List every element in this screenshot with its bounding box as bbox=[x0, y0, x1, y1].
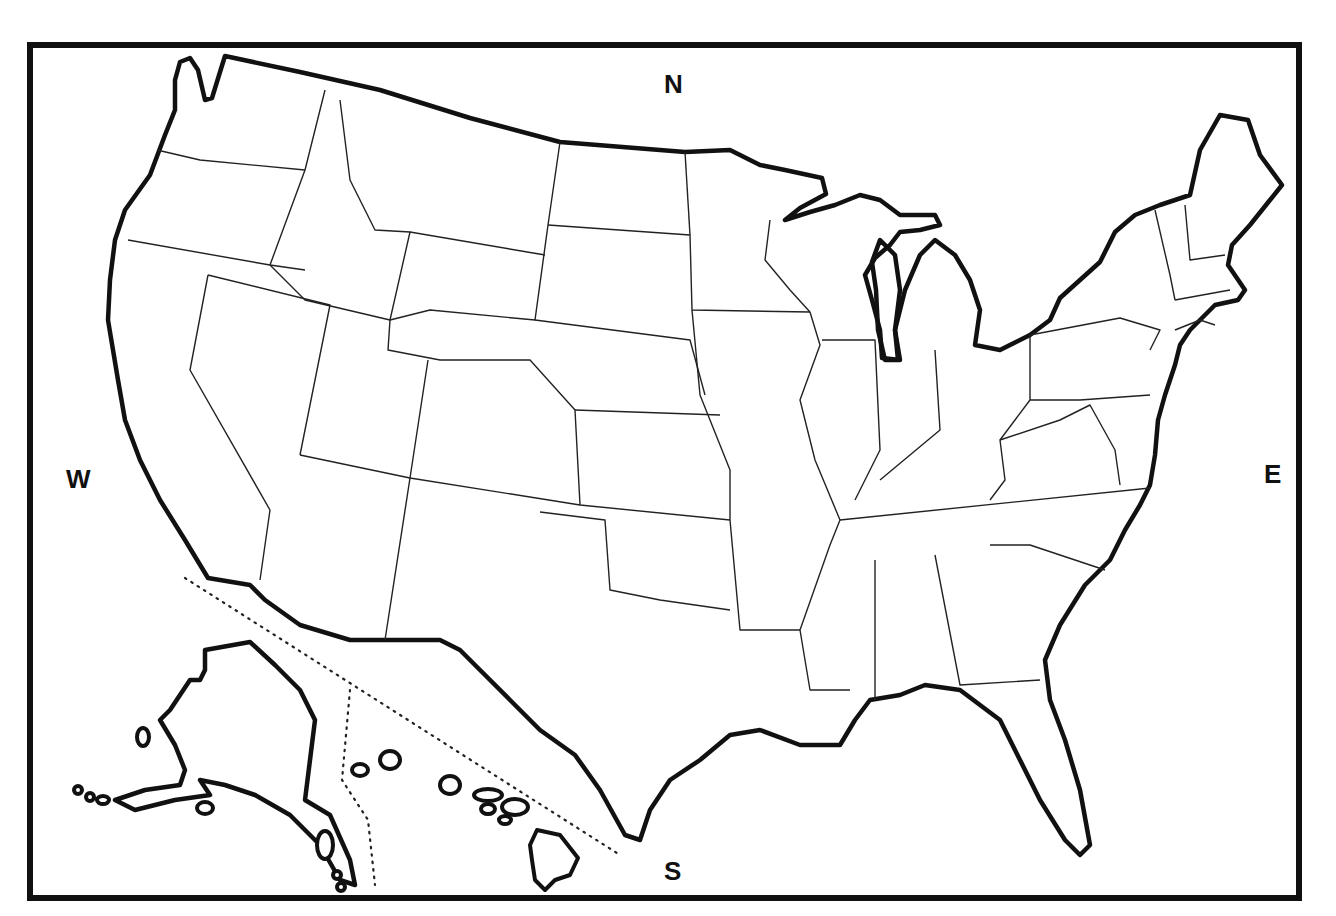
compass-west-label: W bbox=[66, 466, 91, 492]
hawaii-inset bbox=[352, 751, 578, 890]
alaska-inset bbox=[74, 642, 355, 891]
compass-south-label: S bbox=[664, 858, 681, 884]
inset-divider-diagonal bbox=[185, 578, 620, 855]
us-outline-map bbox=[0, 0, 1336, 916]
compass-north-label: N bbox=[664, 71, 683, 97]
state-boundaries bbox=[128, 90, 1230, 700]
compass-east-label: E bbox=[1264, 461, 1281, 487]
contiguous-us-coastline bbox=[108, 56, 1282, 855]
